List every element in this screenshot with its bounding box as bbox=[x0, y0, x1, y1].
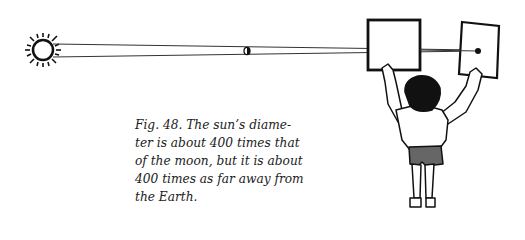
caption-line: ter is about 400 times that bbox=[135, 134, 325, 152]
left-card bbox=[368, 20, 420, 70]
caption-line: of the moon, but it is about bbox=[135, 152, 325, 170]
caption-line: Fig. 48. The sun’s diame- bbox=[135, 116, 325, 134]
figure-caption: Fig. 48. The sun’s diame- ter is about 4… bbox=[135, 116, 325, 206]
sun-icon bbox=[25, 33, 61, 67]
caption-line: the Earth. bbox=[135, 188, 325, 206]
moon-icon bbox=[244, 47, 250, 54]
caption-line: 400 times as far away from bbox=[135, 170, 325, 188]
shadow-dot bbox=[475, 48, 481, 54]
child-figure bbox=[382, 64, 482, 207]
